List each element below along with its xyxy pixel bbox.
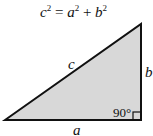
side-b-label: b <box>145 65 153 80</box>
side-a-label: a <box>73 123 81 136</box>
hypotenuse-label: c <box>68 57 75 72</box>
right-angle-label: 90° <box>113 106 131 119</box>
pythagorean-diagram: c2 = a2 + b2 c b a 90° <box>0 0 153 136</box>
